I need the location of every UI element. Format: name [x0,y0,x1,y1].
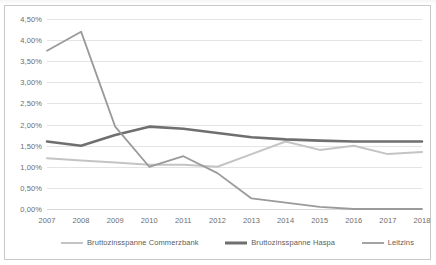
legend-item[interactable]: Bruttozinsspanne Commerzbank [61,238,199,247]
legend-item-label: Bruttozinsspanne Haspa [251,238,335,247]
y-axis-tick-label: 1,50% [20,141,42,150]
series-line [47,127,422,146]
y-axis-tick-label: 2,50% [20,99,42,108]
scan-artifact [0,0,436,4]
series-line [47,32,422,209]
x-axis-tick-label: 2016 [345,216,362,225]
x-axis-tick-label: 2013 [243,216,260,225]
y-axis-tick-label: 0,00% [20,205,42,214]
y-axis-tick-label: 2,00% [20,120,42,129]
chart-legend: Bruttozinsspanne CommerzbankBruttozinssp… [47,238,422,247]
x-axis-tick-label: 2011 [175,216,192,225]
series-lines [47,19,422,209]
y-axis-tick-label: 4,50% [20,15,42,24]
legend-item-label: Bruttozinsspanne Commerzbank [87,238,199,247]
plot-area: 0,00%0,50%1,00%1,50%2,00%2,50%3,00%3,50%… [47,19,422,209]
y-axis-tick-label: 0,50% [20,183,42,192]
y-axis-tick-label: 3,00% [20,78,42,87]
x-axis-tick-label: 2012 [209,216,226,225]
y-axis-tick-label: 4,00% [20,36,42,45]
x-axis-tick-label: 2009 [107,216,124,225]
y-axis-tick-label: 1,00% [20,162,42,171]
x-axis-tick-label: 2015 [311,216,328,225]
legend-item[interactable]: Bruttozinsspanne Haspa [225,238,335,247]
x-axis-tick-label: 2008 [73,216,90,225]
x-axis-tick-label: 2018 [413,216,430,225]
x-axis-tick-label: 2010 [141,216,158,225]
x-axis-tick-label: 2014 [277,216,294,225]
legend-line-icon [225,240,247,246]
series-line [47,141,422,166]
x-axis-tick-label: 2007 [38,216,55,225]
chart-frame: 0,00%0,50%1,00%1,50%2,00%2,50%3,00%3,50%… [4,5,431,260]
x-axis-tick-label: 2017 [379,216,396,225]
legend-line-icon [362,240,384,246]
legend-item[interactable]: Leitzins [362,238,414,247]
y-axis-tick-label: 3,50% [20,57,42,66]
legend-line-icon [61,240,83,246]
legend-item-label: Leitzins [388,238,414,247]
